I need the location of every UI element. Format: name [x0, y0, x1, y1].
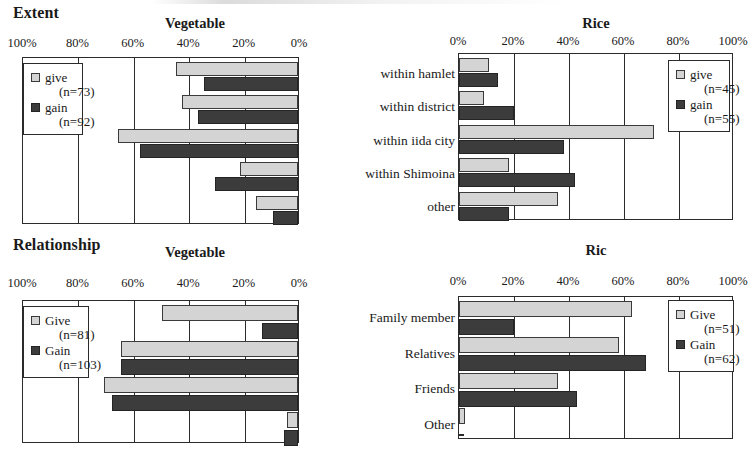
legend-text-wrap: Give(n=51)	[690, 306, 740, 336]
legend-swatch-gain-icon	[676, 340, 685, 349]
chart-title-relationship-rice: Ric	[516, 242, 676, 259]
legend-sample-size: (n=55)	[704, 112, 740, 125]
axis-tick-label: 100%	[7, 276, 36, 291]
axis-tick-label: 40%	[557, 34, 580, 49]
legend-sample-size: (n=103)	[59, 358, 101, 371]
axis-tick-label: 60%	[121, 36, 144, 51]
axis-tick-label: 40%	[177, 36, 200, 51]
scan-edge-artifact	[150, 0, 570, 4]
axis-tick-label: 80%	[667, 34, 690, 49]
axis-tick-label: 60%	[612, 274, 635, 289]
bar-gain	[459, 391, 577, 407]
category-label: within hamlet	[320, 66, 455, 82]
bar-give	[121, 341, 298, 357]
legend-swatch-gain-icon	[676, 100, 685, 109]
legend-extent-vegetable: give(n=73)gain(n=92)	[23, 63, 83, 135]
legend-item-gain: Gain(n=62)	[676, 336, 726, 366]
bar-gain	[273, 211, 298, 225]
axis-tick-label: 20%	[232, 276, 255, 291]
axis-tick-label: 40%	[557, 274, 580, 289]
axis-ticks-extent-rice: 0%20%40%60%80%100%	[458, 34, 733, 50]
bar-give	[459, 125, 654, 139]
legend-label: Give	[45, 313, 70, 328]
bar-give	[162, 305, 298, 321]
bar-give	[459, 91, 484, 105]
axis-tick-label: 20%	[232, 36, 255, 51]
bar-give	[256, 196, 298, 210]
bar-gain	[121, 359, 298, 375]
axis-tick-label: 20%	[502, 34, 525, 49]
bar-gain	[112, 395, 298, 411]
axis-tick-label: 0%	[450, 34, 467, 49]
bar-give	[459, 337, 619, 353]
legend-swatch-give-icon	[31, 73, 40, 82]
axis-tick-label: 80%	[667, 274, 690, 289]
bar-give	[459, 373, 558, 389]
legend-relationship-rice: Give(n=51)Gain(n=62)	[668, 300, 734, 372]
axis-tick-label: 60%	[121, 276, 144, 291]
bar-give	[459, 158, 509, 172]
bar-give	[287, 412, 298, 428]
section-title-extent: Extent	[13, 4, 59, 22]
bar-gain	[459, 73, 498, 87]
category-label: within district	[320, 99, 455, 115]
bar-give	[176, 62, 298, 76]
legend-swatch-gain-icon	[31, 346, 40, 355]
bar-gain	[459, 140, 564, 154]
bar-give	[118, 129, 298, 143]
legend-item-gain: gain(n=92)	[31, 99, 75, 129]
bar-gain	[459, 355, 646, 371]
legend-item-give: Give(n=51)	[676, 306, 726, 336]
category-label: Relatives	[320, 346, 455, 362]
legend-label: Gain	[45, 343, 70, 358]
bar-gain-zero	[459, 434, 464, 436]
legend-swatch-give-icon	[676, 310, 685, 319]
category-label: other	[320, 199, 455, 215]
legend-sample-size: (n=73)	[59, 85, 95, 98]
axis-tick-label: 0%	[291, 276, 308, 291]
category-label: within iida city	[320, 133, 455, 149]
legend-item-gain: gain(n=55)	[676, 96, 722, 126]
legend-label: give	[690, 67, 712, 82]
chart-title-extent-vegetable: Vegetable	[115, 15, 275, 32]
axis-tick-label: 0%	[450, 274, 467, 289]
chart-title-relationship-vegetable: Vegetable	[115, 244, 275, 261]
axis-ticks-extent-vegetable: 100%80%60%40%20%0%	[22, 36, 299, 52]
legend-sample-size: (n=92)	[59, 115, 95, 128]
legend-sample-size: (n=81)	[59, 328, 95, 341]
axis-ticks-relationship-vegetable: 100%80%60%40%20%0%	[22, 276, 299, 292]
bar-gain	[198, 110, 298, 124]
bar-give	[459, 408, 465, 424]
bar-give	[459, 58, 489, 72]
bar-give	[459, 192, 558, 206]
legend-label: Gain	[690, 337, 715, 352]
axis-tick-label: 80%	[66, 36, 89, 51]
legend-extent-rice: give(n=45)gain(n=55)	[668, 60, 730, 132]
legend-text-wrap: give(n=45)	[690, 66, 740, 96]
bar-gain	[215, 177, 298, 191]
legend-text-wrap: give(n=73)	[45, 69, 95, 99]
legend-item-give: give(n=45)	[676, 66, 722, 96]
legend-sample-size: (n=45)	[704, 82, 740, 95]
legend-swatch-give-icon	[676, 70, 685, 79]
axis-tick-label: 60%	[612, 34, 635, 49]
axis-tick-label: 40%	[177, 276, 200, 291]
legend-swatch-gain-icon	[31, 103, 40, 112]
legend-item-give: Give(n=81)	[31, 312, 81, 342]
section-title-relationship: Relationship	[13, 236, 100, 254]
bar-gain	[459, 106, 514, 120]
legend-text-wrap: Gain(n=103)	[45, 342, 101, 372]
category-label: within Shimoina	[320, 166, 455, 182]
bar-give	[459, 301, 632, 317]
legend-label: gain	[45, 100, 67, 115]
bar-gain	[459, 207, 509, 221]
bar-give	[240, 162, 298, 176]
legend-relationship-vegetable: Give(n=81)Gain(n=103)	[23, 306, 89, 378]
axis-tick-label: 100%	[718, 34, 747, 49]
axis-tick-label: 80%	[66, 276, 89, 291]
legend-text-wrap: Give(n=81)	[45, 312, 95, 342]
chart-title-extent-rice: Rice	[516, 15, 676, 32]
bar-gain	[140, 144, 298, 158]
axis-tick-label: 100%	[718, 274, 747, 289]
category-label: Family member	[320, 310, 455, 326]
